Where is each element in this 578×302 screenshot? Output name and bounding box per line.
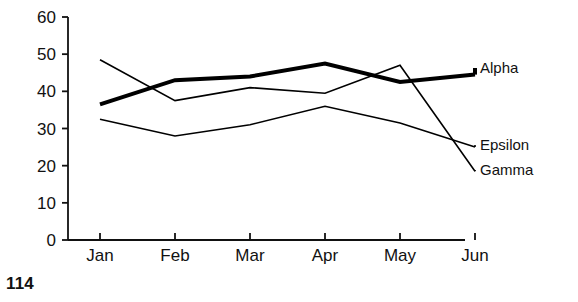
series-label-gamma: Gamma bbox=[480, 161, 534, 178]
series-label-epsilon: Epsilon bbox=[480, 136, 529, 153]
y-axis-tick-labels: 0102030405060 bbox=[37, 8, 56, 250]
x-tick-label: Mar bbox=[235, 246, 265, 265]
x-tick-label: May bbox=[384, 246, 417, 265]
series-label-alpha: Alpha bbox=[480, 59, 519, 76]
x-axis: JanFebMarAprMayJun bbox=[68, 233, 489, 265]
y-tick-label: 40 bbox=[37, 82, 56, 101]
series-line-alpha bbox=[100, 63, 475, 104]
y-tick-label: 30 bbox=[37, 120, 56, 139]
x-tick-label: Feb bbox=[160, 246, 189, 265]
series-line-epsilon bbox=[100, 106, 475, 147]
y-tick-label: 50 bbox=[37, 45, 56, 64]
y-tick-label: 60 bbox=[37, 8, 56, 27]
x-tick-label: Jun bbox=[461, 246, 488, 265]
series-labels-group: AlphaEpsilonGamma bbox=[480, 59, 534, 178]
y-tick-label: 20 bbox=[37, 157, 56, 176]
line-chart: 0102030405060 JanFebMarAprMayJun AlphaEp… bbox=[0, 0, 578, 302]
x-axis-ticks bbox=[100, 233, 475, 240]
y-tick-label: 0 bbox=[47, 231, 56, 250]
page-number: 114 bbox=[6, 274, 34, 294]
chart-figure: 0102030405060 JanFebMarAprMayJun AlphaEp… bbox=[0, 0, 578, 302]
y-tick-label: 10 bbox=[37, 194, 56, 213]
x-tick-label: Jan bbox=[86, 246, 113, 265]
x-axis-tick-labels: JanFebMarAprMayJun bbox=[86, 246, 488, 265]
y-axis: 0102030405060 bbox=[37, 8, 68, 250]
x-tick-label: Apr bbox=[312, 246, 339, 265]
series-lines-group bbox=[100, 60, 475, 172]
